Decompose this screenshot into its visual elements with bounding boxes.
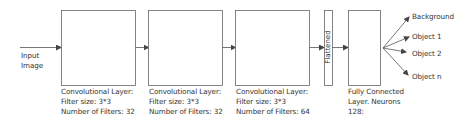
conv-layer-2-title: Convolutional Layer: xyxy=(149,87,221,97)
fc-neurons-count: 128: xyxy=(348,107,364,117)
output-object-1: Object 1 xyxy=(412,32,441,42)
conv-layer-3-filter-size: Filter size: 3*3 xyxy=(236,97,286,107)
conv-layer-1-filter-size: Filter size: 3*3 xyxy=(61,97,111,107)
conv-layer-2-filter-count: Number of Filters: 32 xyxy=(149,107,223,117)
arrow-output-object-1 xyxy=(383,37,409,48)
input-label-line2: Image xyxy=(21,61,43,71)
conv-layer-1-box xyxy=(62,11,136,86)
conv-layer-3-box xyxy=(236,11,310,86)
conv-layer-1-title: Convolutional Layer: xyxy=(61,87,133,97)
input-label-line1: Input xyxy=(21,51,39,61)
output-object-n: Object n xyxy=(412,72,441,82)
conv-layer-3-title: Convolutional Layer: xyxy=(236,87,308,97)
arrow-output-background xyxy=(383,17,409,48)
fully-connected-box xyxy=(349,11,381,86)
conv-layer-2-box xyxy=(149,11,223,86)
fc-title: Fully Connected xyxy=(348,87,404,97)
conv-layer-3-filter-count: Number of Filters: 64 xyxy=(236,107,310,117)
conv-layer-1-filter-count: Number of Filters: 32 xyxy=(61,107,135,117)
output-background: Background xyxy=(412,12,454,22)
conv-layer-2-filter-size: Filter size: 3*3 xyxy=(149,97,199,107)
fc-neurons-label: Layer. Neurons xyxy=(348,97,400,107)
output-object-2: Object 2 xyxy=(412,49,441,59)
flatten-label: Flattened xyxy=(323,22,333,72)
